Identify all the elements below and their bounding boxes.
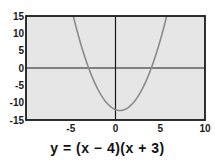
y-tick-labels: 151050-5-10-15 [10, 11, 25, 126]
x-tick-label: 0 [113, 123, 119, 134]
x-tick-label: 5 [157, 123, 163, 134]
y-tick-label: 10 [13, 28, 25, 39]
y-tick-label: -15 [10, 115, 25, 126]
y-tick-label: 0 [18, 63, 24, 74]
y-tick-label: -10 [10, 97, 25, 108]
y-tick-label: -5 [15, 80, 24, 91]
y-tick-label: 15 [13, 11, 25, 22]
x-tick-labels: -50510 [66, 123, 211, 134]
x-tick-label: -5 [66, 123, 75, 134]
y-tick-label: 5 [18, 45, 24, 56]
x-tick-label: 10 [199, 123, 211, 134]
chart-caption: y = (x − 4)(x + 3) [0, 140, 215, 156]
